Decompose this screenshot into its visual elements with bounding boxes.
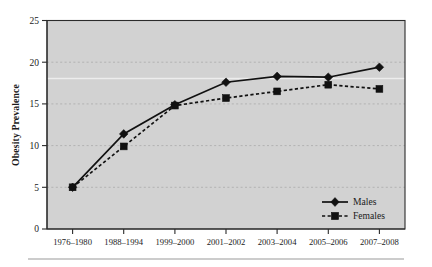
- square-marker: [171, 102, 178, 109]
- x-tick-labels: 1976–1980 1988–1994 1999–2000 2001–2002 …: [53, 237, 398, 247]
- x-tick-label-2: 1999–2000: [156, 237, 195, 247]
- x-tick-label-6: 2007–2008: [360, 237, 399, 247]
- square-marker: [376, 85, 383, 92]
- y-tick-label-10: 10: [30, 141, 40, 151]
- x-tick-label-3: 2001–2002: [207, 237, 246, 247]
- y-axis-title: Obesity Prevalence: [10, 84, 21, 166]
- y-tick-label-0: 0: [34, 224, 39, 234]
- y-tick-label-25: 25: [30, 16, 40, 26]
- x-axis: [47, 229, 405, 234]
- square-marker: [274, 88, 281, 95]
- square-marker: [325, 81, 332, 88]
- y-axis: [42, 21, 47, 230]
- legend-label-males: Males: [353, 196, 377, 207]
- square-marker: [69, 184, 76, 191]
- legend-label-females: Females: [353, 210, 385, 221]
- obesity-prevalence-line-chart: 25 20 15 10 5 0 Obesity Prevalence 1976–…: [0, 0, 432, 267]
- y-tick-label-20: 20: [30, 58, 40, 68]
- y-tick-labels: 25 20 15 10 5 0: [30, 16, 40, 235]
- x-tick-label-4: 2003–2004: [258, 237, 297, 247]
- chart-figure: 25 20 15 10 5 0 Obesity Prevalence 1976–…: [0, 0, 432, 267]
- x-tick-label-1: 1988–1994: [104, 237, 143, 247]
- y-tick-label-15: 15: [30, 99, 40, 109]
- square-marker: [223, 95, 230, 102]
- x-tick-label-5: 2005–2006: [309, 237, 348, 247]
- plot-area-background: [47, 21, 405, 230]
- square-marker: [120, 143, 127, 150]
- y-tick-label-5: 5: [34, 183, 39, 193]
- x-tick-label-0: 1976–1980: [53, 237, 92, 247]
- square-marker: [331, 212, 338, 219]
